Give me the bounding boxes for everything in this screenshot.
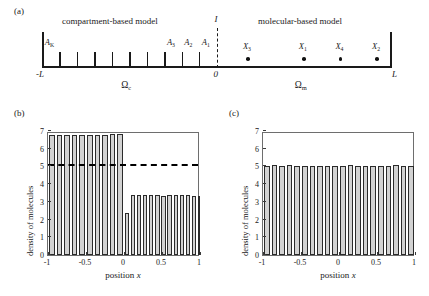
x-tick (162, 252, 163, 255)
bar (325, 166, 331, 255)
figure-root: (a) compartment-based model molecular-ba… (0, 0, 429, 296)
plot-area (47, 132, 199, 256)
bar (378, 166, 384, 255)
compartment-tick (59, 52, 60, 66)
bar (57, 135, 63, 255)
compartment-tick (112, 52, 113, 66)
x-tick-label: 0 (326, 258, 350, 267)
bar (192, 196, 196, 255)
bar (143, 195, 147, 255)
bar (340, 166, 346, 255)
bar (87, 135, 93, 255)
bar (348, 165, 354, 255)
bar (137, 195, 141, 255)
compartment-label: A3 (167, 37, 175, 48)
molecule-dot (339, 57, 343, 61)
bar-series (48, 133, 198, 255)
bar (102, 135, 108, 255)
x-axis-title: position x (262, 270, 414, 280)
panel-a-schematic: (a) compartment-based model molecular-ba… (0, 0, 429, 104)
compartment-tick (147, 52, 148, 66)
molecule-label: X4 (335, 41, 343, 52)
y-tick (48, 183, 51, 184)
y-tick (263, 219, 266, 220)
bar (279, 166, 285, 255)
y-tick-label: 7 (33, 127, 44, 136)
x-tick (339, 252, 340, 255)
bar (317, 166, 323, 255)
domain-label-compartment: Ωc (121, 80, 131, 91)
compartment-label: AK (45, 37, 54, 48)
bar (186, 195, 190, 255)
y-tick-label: 6 (248, 145, 259, 154)
x-tick (124, 252, 125, 255)
bar-series (263, 133, 413, 255)
compartment-tick (199, 52, 200, 66)
y-tick (263, 165, 266, 166)
x-axis-title: position x (47, 270, 199, 280)
y-tick (263, 130, 266, 131)
x-tick (86, 252, 87, 255)
origin-label: 0 (214, 69, 219, 79)
x-tick (415, 252, 416, 255)
y-tick (48, 165, 51, 166)
x-tick-label: -1 (35, 258, 59, 267)
y-tick (263, 236, 266, 237)
y-tick-label: 5 (33, 162, 44, 171)
compartment-tick (129, 52, 130, 66)
bar (125, 213, 129, 255)
y-tick (263, 148, 266, 149)
bar (408, 166, 414, 255)
y-tick (48, 148, 51, 149)
bar (131, 195, 135, 255)
y-axis-title: density of molecules (240, 186, 250, 256)
bar (180, 195, 184, 255)
panel-c-chart: (c) 01234567-1-0.500.51position xdensity… (215, 104, 429, 296)
y-tick (48, 201, 51, 202)
molecule-dot (302, 57, 306, 61)
bar (386, 166, 392, 255)
bar (264, 166, 270, 255)
interface-dashed-line (217, 28, 218, 68)
y-tick (48, 130, 51, 131)
panel-c-label: (c) (229, 108, 239, 118)
x-tick (301, 252, 302, 255)
molecule-label: X2 (372, 41, 380, 52)
molecule-label: X3 (243, 41, 251, 52)
plot-area (262, 132, 414, 256)
compartment-tick (182, 52, 183, 66)
bar (167, 195, 171, 255)
molecule-dot (375, 57, 379, 61)
y-tick-label: 5 (248, 162, 259, 171)
bar (370, 166, 376, 255)
bar (332, 166, 338, 255)
y-tick-label: 7 (248, 127, 259, 136)
bar (95, 135, 101, 255)
right-endpoint-label: L (392, 69, 397, 79)
x-tick-label: 1 (187, 258, 211, 267)
bar (117, 134, 123, 255)
bar (174, 195, 178, 255)
bar (79, 135, 85, 255)
bar (287, 165, 293, 255)
y-tick-label: 6 (33, 145, 44, 154)
bar (310, 166, 316, 255)
left-endpoint-label: -L (36, 69, 44, 79)
x-tick (200, 252, 201, 255)
bar (161, 196, 165, 255)
x-tick-label: 0 (111, 258, 135, 267)
y-tick (263, 183, 266, 184)
y-tick (48, 236, 51, 237)
bar (401, 166, 407, 255)
panel-b-chart: (b) 01234567-1-0.500.51position xdensity… (0, 104, 215, 296)
bar (110, 134, 116, 255)
x-tick (377, 252, 378, 255)
panel-b-label: (b) (14, 108, 25, 118)
compartment-label: A2 (184, 37, 192, 48)
panel-a-label: (a) (14, 6, 24, 16)
bar (64, 135, 70, 255)
bar (363, 166, 369, 255)
x-tick-label: 0.5 (364, 258, 388, 267)
bar (302, 166, 308, 255)
bar (272, 165, 278, 255)
